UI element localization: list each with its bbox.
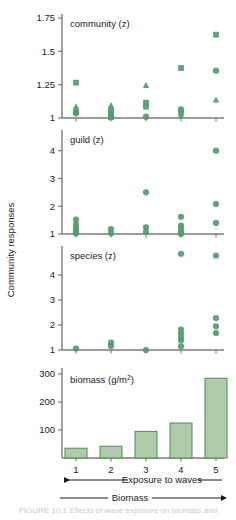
y-tick-label: 1.25 [37,79,56,90]
data-point-circle [73,345,79,351]
figure-caption-strip: FIGURE 10.1 Effects of wave exposure on … [0,508,236,520]
bar [205,378,227,458]
figure-caption: FIGURE 10.1 Effects of wave exposure on … [0,508,236,517]
data-point-circle [213,68,219,74]
data-point-circle [213,220,219,226]
x-tick-label: 5 [213,464,218,475]
data-point-circle [108,230,114,236]
data-point-triangle [108,102,114,108]
panel-title: biomass (g/m2) [70,374,134,386]
y-tick-label: 1 [50,112,55,123]
bar [170,423,192,458]
data-point-circle [178,337,184,343]
data-point-circle [178,343,184,349]
data-point-circle [178,214,184,220]
x-tick-label: 3 [143,464,148,475]
y-tick-label: 4 [50,145,55,156]
y-tick-label: 100 [39,424,55,435]
data-point-circle [143,347,149,353]
x-tick-label: 4 [178,464,183,475]
y-tick-label: 3 [50,173,55,184]
data-point-circle [73,110,79,116]
data-point-triangle [143,82,149,88]
biomass-label: Biomass [112,492,149,503]
exposure-to-waves-label: Exposure to waves [122,474,203,485]
y-tick-label: 2 [50,319,55,330]
data-point-circle [213,201,219,207]
panel-title: community (z) [70,18,130,29]
data-point-circle [143,229,149,235]
data-point-circle [143,189,149,195]
data-point-circle [108,113,114,119]
y-tick-label: 1.5 [42,46,55,57]
data-point-circle [178,251,184,257]
figure-svg: 11.251.51.75community (z)1234guild (z)12… [0,0,236,520]
data-point-square [73,80,79,86]
data-point-triangle [73,103,79,109]
y-tick-label: 1 [50,228,55,239]
y-tick-label: 1 [50,344,55,355]
y-tick-label: 2 [50,201,55,212]
data-point-circle [213,330,219,336]
data-point-triangle [213,97,219,103]
x-axis-annotations: Exposure to wavesBiomass [60,474,222,503]
data-point-square [178,65,184,71]
panel-title: species (z) [70,250,116,261]
panel-title: guild (z) [70,134,104,145]
x-tick-label: 1 [73,464,78,475]
data-point-circle [213,252,219,258]
panel-biomass: 100200300biomass (g/m2)12345 [39,368,227,475]
data-point-circle [73,230,79,236]
data-point-circle [108,343,114,349]
data-point-circle [213,315,219,321]
data-point-circle [178,106,184,112]
data-point-circle [213,148,219,154]
y-axis-title: Community responses [5,202,16,297]
y-tick-label: 3 [50,294,55,305]
data-point-square [213,32,219,38]
data-point-circle [178,231,184,237]
bar [100,446,122,458]
y-tick-label: 200 [39,396,55,407]
panel-community: 11.251.51.75community (z) [37,12,225,123]
data-point-circle [143,114,149,120]
panel-species: 1234species (z) [50,246,224,355]
y-tick-label: 1.75 [37,12,56,23]
x-tick-label: 2 [108,464,113,475]
y-tick-label: 4 [50,269,55,280]
data-point-square [143,104,149,110]
data-point-circle [213,323,219,329]
figure-panel-stack: 11.251.51.75community (z)1234guild (z)12… [0,0,236,520]
bar [135,431,157,458]
y-tick-label: 300 [39,368,55,379]
bar [65,448,87,458]
panel-guild: 1234guild (z) [50,130,224,239]
